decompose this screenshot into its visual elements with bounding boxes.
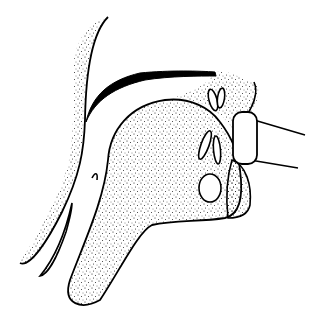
lower-lip bbox=[227, 160, 251, 218]
anatomical-illustration bbox=[0, 0, 319, 318]
tongue bbox=[68, 100, 241, 305]
mouthpiece bbox=[233, 112, 305, 168]
